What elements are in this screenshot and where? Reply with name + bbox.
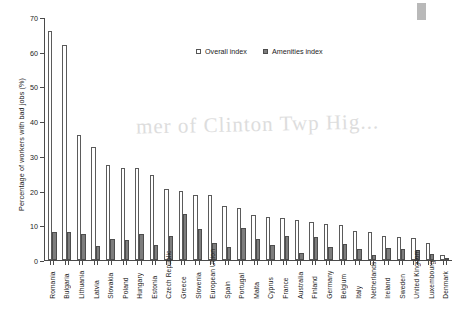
x-axis-label-cell: Denmark [439,249,454,299]
bar-group [394,18,409,260]
y-axis-tick [40,53,44,54]
y-axis-tick-label: 10 [30,222,38,231]
y-axis-tick-label: 0 [34,257,38,266]
chart-figure: Percentage of workers with bad jobs (%) … [0,0,460,335]
bar-group [118,18,133,260]
x-axis-label-cell: Italy [351,249,366,299]
x-axis-label: Spain [224,249,231,299]
bar-group [60,18,75,260]
x-axis-label: Sweden [399,249,406,299]
bar-group [437,18,452,260]
bar-group [205,18,220,260]
x-axis-label: Latvia [93,249,100,299]
x-axis-label-cell: Romania [45,249,60,299]
bar-group [45,18,60,260]
bar-group [278,18,293,260]
x-axis-label-cell: Portugal [235,249,250,299]
x-axis-label: Ireland [384,249,391,299]
x-axis-label: Denmark [442,249,449,299]
bar-group [161,18,176,260]
bar-group [176,18,191,260]
y-axis-tick [40,87,44,88]
x-axis-label-cell: Slovakia [103,249,118,299]
x-axis-label-cell: Australia [293,249,308,299]
bar-group [248,18,263,260]
y-axis-tick [40,261,44,262]
x-axis-label-cell: Lithuania [74,249,89,299]
x-axis-label-cell: Czech Republic [162,249,177,299]
y-axis-tick [40,192,44,193]
bar-group [147,18,162,260]
x-axis-label-cell: Bulgaria [60,249,75,299]
x-axis-label-cell: Luxembourg [424,249,439,299]
x-axis-label: France [282,249,289,299]
x-axis-label-cell: Hungary [132,249,147,299]
bar-series-container [45,18,452,260]
x-axis-label: Slovakia [107,249,114,299]
y-axis-tick-label: 50 [30,83,38,92]
x-axis-label-cell: Germany [322,249,337,299]
bar-group [132,18,147,260]
x-axis-label: Romania [49,249,56,299]
x-axis-label-cell: Malta [249,249,264,299]
bar-group [219,18,234,260]
y-axis-tick-label: 40 [30,118,38,127]
bar-group [321,18,336,260]
x-axis-label: Czech Republic [165,249,172,299]
bar-group [74,18,89,260]
y-axis-tick [40,122,44,123]
x-axis-label-cell: Spain [220,249,235,299]
x-axis-label: European Union [209,249,216,299]
x-axis-label: Germany [326,249,333,299]
plot-area: 010203040506070 [44,18,452,261]
y-axis-tick [40,157,44,158]
x-axis-label-cell: Ireland [380,249,395,299]
x-axis-label-cell: Estonia [147,249,162,299]
y-axis-tick [40,226,44,227]
x-axis-label-cell: European Union [205,249,220,299]
x-axis-label: Finland [311,249,318,299]
x-axis-label: United Kingdom [413,249,420,299]
x-axis-label-cell: Netherlands [366,249,381,299]
x-axis-label: Australia [297,249,304,299]
x-axis-label: Lithuania [78,249,85,299]
x-axis-label-cell: Sweden [395,249,410,299]
x-axis-label: Portugal [238,249,245,299]
x-axis-label: Luxembourg [428,249,435,299]
x-axis-label: Slovenia [195,249,202,299]
x-axis-label: Italy [355,249,362,299]
y-axis-tick-label: 60 [30,48,38,57]
y-axis-title: Percentage of workers with bad jobs (%) [17,45,26,245]
y-axis-tick-label: 20 [30,187,38,196]
bar-group [423,18,438,260]
x-axis-label: Cyprus [267,249,274,299]
y-axis-tick-label: 70 [30,14,38,23]
y-axis-tick [40,18,44,19]
bar-group [190,18,205,260]
y-axis-tick-label: 30 [30,152,38,161]
x-axis-label-cell: Finland [307,249,322,299]
x-axis-label-cell: France [278,249,293,299]
x-axis-label-cell: Poland [118,249,133,299]
bar-group [350,18,365,260]
bar-group [408,18,423,260]
x-axis-label: Malta [253,249,260,299]
bar-group [234,18,249,260]
x-axis-label: Hungary [136,249,143,299]
x-axis-label: Estonia [151,249,158,299]
x-axis-label-cell: United Kingdom [409,249,424,299]
x-axis-label-cell: Cyprus [264,249,279,299]
bar-overall-index [48,31,52,260]
bar-overall-index [62,45,66,260]
bar-group [263,18,278,260]
bar-group [379,18,394,260]
x-axis-label-cell: Latvia [89,249,104,299]
x-axis-label: Belgium [340,249,347,299]
x-axis-label: Greece [180,249,187,299]
bar-group [292,18,307,260]
bar-overall-index [91,147,95,260]
x-axis-label: Bulgaria [63,249,70,299]
x-axis-label-cell: Greece [176,249,191,299]
x-axis-label-cell: Slovenia [191,249,206,299]
x-axis-label-cell: Belgium [337,249,352,299]
